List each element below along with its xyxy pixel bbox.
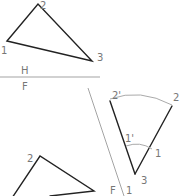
vertex-2-label: 2: [40, 0, 46, 11]
revolution-arc-1: [126, 144, 152, 149]
vertex-1prime-label: 1': [125, 133, 134, 144]
edge-2-3: [135, 106, 172, 174]
vertex-2prime-label: 2': [112, 90, 121, 101]
descriptive-geometry-diagram: 1 2 3 H F F 1 2' 2 1' 1 3 2: [0, 0, 183, 196]
vertex-1-rev-label: 1: [155, 148, 161, 159]
fold-label-f2: F: [110, 185, 116, 196]
top-view-triangle: [7, 4, 92, 61]
vertex-1-label: 1: [1, 45, 7, 56]
vertex-2-rev-label: 2: [173, 92, 179, 103]
vertex-2-front-label: 2: [27, 153, 33, 164]
fold-label-f: F: [22, 81, 28, 92]
fold-line-f1: [88, 88, 124, 196]
vertex-3-rev-label: 3: [141, 175, 147, 186]
fold-label-1: 1: [126, 185, 132, 196]
front-view-triangle: [12, 156, 94, 196]
vertex-3-label: 3: [97, 52, 103, 63]
fold-label-h: H: [21, 65, 29, 76]
